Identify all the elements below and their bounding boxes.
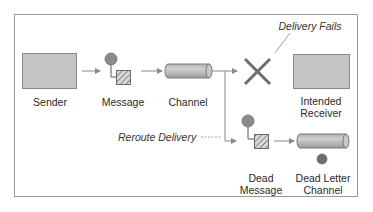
dlc-label-line2: Channel — [290, 184, 356, 196]
dead-letter-dot-icon — [317, 154, 327, 164]
channel-label: Channel — [163, 96, 213, 108]
receiver-label-line1: Intended — [288, 95, 354, 107]
reroute-line — [225, 71, 236, 141]
dlc-label-line1: Dead Letter — [290, 172, 356, 184]
intended-receiver-box — [294, 55, 350, 89]
sender-box — [23, 54, 77, 89]
message-label: Message — [98, 96, 148, 108]
dead-message-label-line2: Message — [236, 184, 286, 196]
reroute-delivery-annotation: Reroute Delivery — [118, 131, 202, 143]
channel-pipe-icon — [165, 64, 212, 78]
delivery-fails-leader — [275, 33, 290, 53]
receiver-label-line2: Receiver — [288, 107, 354, 119]
delivery-failed-x-icon — [245, 59, 270, 84]
dead-message-icon — [242, 115, 269, 149]
message-icon — [105, 53, 131, 85]
sender-label: Sender — [22, 96, 78, 108]
dead-letter-channel-pipe-icon — [297, 134, 349, 148]
delivery-fails-annotation: Delivery Fails — [270, 20, 350, 32]
dead-message-label-line1: Dead — [236, 172, 286, 184]
